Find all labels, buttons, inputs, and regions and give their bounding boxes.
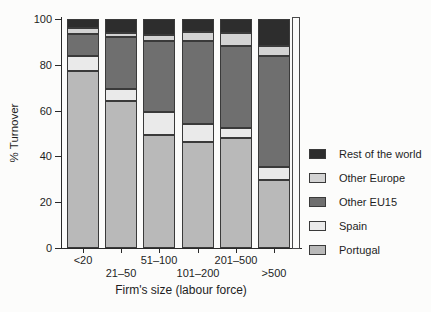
x-tick-label: <20: [74, 254, 93, 266]
y-tick-mark: [55, 202, 61, 203]
y-tick-mark: [55, 156, 61, 157]
x-tick-label: 21–50: [106, 267, 137, 279]
bar-segment: [143, 135, 175, 248]
plot-right-frame: [292, 17, 300, 249]
stacked-bar-chart-figure: % Turnover 020406080100 <2021–5051–10010…: [0, 0, 431, 312]
bar-segment: [182, 124, 214, 141]
bar-segment: [105, 37, 137, 89]
legend-swatch: [309, 149, 326, 159]
y-tick-label: 40: [40, 151, 52, 162]
y-tick-label: 0: [46, 243, 52, 254]
bar-segment: [67, 71, 99, 248]
legend-label: Portugal: [339, 244, 380, 256]
bar-segment: [105, 19, 137, 33]
y-tick-mark: [55, 111, 61, 112]
bar-segment: [182, 41, 214, 125]
bar-segment: [258, 46, 290, 55]
bar-segment: [105, 89, 137, 102]
y-tick-label: 20: [40, 197, 52, 208]
legend-item: Rest of the world: [309, 148, 422, 160]
bar-segment: [67, 34, 99, 56]
bar-segment: [220, 46, 252, 127]
bar-segment: [220, 128, 252, 138]
bar-segment: [105, 33, 137, 38]
x-tick-mark: [236, 249, 237, 253]
y-tick-mark: [55, 19, 61, 20]
y-tick-label: 100: [34, 14, 52, 25]
bar-segment: [258, 56, 290, 167]
bar-segment: [258, 180, 290, 248]
bar-segment: [182, 19, 214, 32]
x-tick-mark: [121, 249, 122, 253]
x-tick-label: 51–100: [141, 254, 178, 266]
legend-label: Other EU15: [339, 196, 397, 208]
bar-segment: [67, 28, 99, 34]
bar-segment: [182, 32, 214, 41]
bar-segment: [105, 101, 137, 248]
x-tick-label: 201–500: [215, 254, 258, 266]
legend-label: Rest of the world: [339, 148, 422, 160]
y-axis-title: % Turnover: [8, 104, 20, 163]
legend-label: Spain: [339, 220, 367, 232]
x-tick-mark: [274, 249, 275, 253]
bar-segment: [143, 19, 175, 35]
legend-item: Portugal: [309, 244, 380, 256]
legend-item: Other EU15: [309, 196, 397, 208]
legend-item: Other Europe: [309, 172, 405, 184]
legend-item: Spain: [309, 220, 367, 232]
bar-segment: [220, 33, 252, 47]
legend-swatch: [309, 173, 326, 183]
y-axis-line: [61, 17, 62, 249]
bar-segment: [182, 142, 214, 248]
x-tick-label: 101–200: [177, 267, 220, 279]
y-tick-label: 80: [40, 60, 52, 71]
legend-swatch: [309, 221, 326, 231]
bar-segment: [143, 35, 175, 41]
x-tick-label: >500: [262, 267, 287, 279]
x-axis-line: [55, 248, 302, 249]
bar-segment: [258, 167, 290, 181]
legend-label: Other Europe: [339, 172, 405, 184]
legend-swatch: [309, 245, 326, 255]
bar-segment: [143, 41, 175, 112]
x-tick-mark: [159, 249, 160, 253]
bar-segment: [220, 19, 252, 33]
bar-segment: [67, 56, 99, 71]
bar-segment: [143, 112, 175, 135]
x-tick-mark: [83, 249, 84, 253]
bar-segment: [220, 138, 252, 248]
bar-segment: [258, 19, 290, 46]
y-tick-mark: [55, 65, 61, 66]
x-tick-mark: [198, 249, 199, 253]
y-tick-label: 60: [40, 106, 52, 117]
legend-swatch: [309, 197, 326, 207]
y-tick-mark: [55, 248, 61, 249]
x-axis-title: Firm's size (labour force): [115, 283, 247, 297]
bar-segment: [67, 19, 99, 28]
